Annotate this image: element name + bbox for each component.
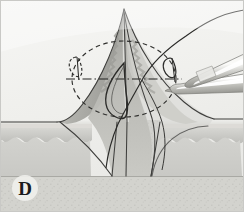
surgical-illustration-figure: D: [0, 0, 244, 212]
panel-label: D: [12, 175, 38, 201]
panel-label-text: D: [18, 178, 32, 199]
deep-tissue-band: [0, 176, 244, 212]
illustration-canvas: D: [0, 0, 244, 212]
